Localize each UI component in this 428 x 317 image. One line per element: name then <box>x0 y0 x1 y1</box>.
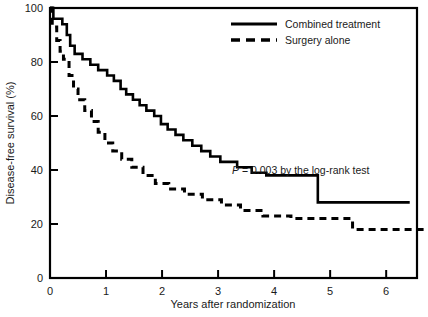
y-tick-label: 20 <box>31 218 43 230</box>
legend-label: Surgery alone <box>285 34 351 46</box>
x-tick-label: 5 <box>327 285 333 297</box>
x-tick-label: 3 <box>215 285 221 297</box>
log-rank-annotation: P = 0.003 by the log-rank test <box>232 164 370 176</box>
x-axis-title-group: Years after randomization <box>171 298 296 310</box>
plot-frame <box>50 8 417 278</box>
y-tick-label: 0 <box>37 272 43 284</box>
pvalue-text: = 0.003 by the log-rank test <box>239 164 370 176</box>
x-axis-title: Years after randomization <box>171 298 296 310</box>
x-tick-label: 2 <box>159 285 165 297</box>
y-axis-ticks: 020406080100 <box>25 2 58 284</box>
x-tick-label: 6 <box>383 285 389 297</box>
x-tick-label: 1 <box>103 285 109 297</box>
y-axis-title-group: Disease-free survival (%) <box>4 82 16 205</box>
x-tick-label: 0 <box>47 285 53 297</box>
y-tick-label: 40 <box>31 164 43 176</box>
y-tick-label: 60 <box>31 110 43 122</box>
plot-border <box>50 8 417 278</box>
y-tick-label: 100 <box>25 2 43 14</box>
x-axis-ticks: 0123456 <box>47 270 389 297</box>
chart-canvas: 020406080100 0123456 Disease-free surviv… <box>0 0 428 317</box>
legend-label: Combined treatment <box>285 18 380 30</box>
y-axis-title: Disease-free survival (%) <box>4 82 16 205</box>
x-tick-label: 4 <box>271 285 277 297</box>
kaplan-meier-chart: 020406080100 0123456 Disease-free surviv… <box>0 0 428 317</box>
annotation-group: P = 0.003 by the log-rank test <box>232 164 370 176</box>
y-tick-label: 80 <box>31 56 43 68</box>
chart-legend: Combined treatmentSurgery alone <box>231 18 380 46</box>
pvalue-symbol: P <box>232 164 239 176</box>
